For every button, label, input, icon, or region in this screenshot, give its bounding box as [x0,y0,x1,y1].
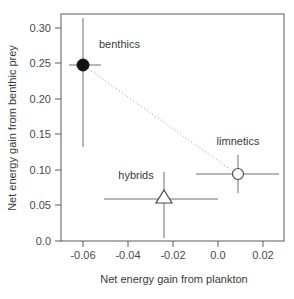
x-tick-label-3: 0.0 [210,249,225,261]
hybrids-marker [156,190,172,203]
y-tick-label-5: 0.25 [30,57,51,69]
hybrids-label: hybrids [118,169,154,181]
data-point-hybrids [104,172,218,238]
x-axis-title: Net energy gain from plankton [100,273,247,285]
benthics-marker [77,59,89,71]
y-tick-label-6: 0.30 [30,22,51,34]
data-point-limnetics [196,155,279,193]
limnetics-marker [233,169,244,180]
plot-frame [61,14,284,241]
benthics-label: benthics [99,38,140,50]
y-tick-label-4: 0.20 [30,93,51,105]
y-axis-tick-labels: 0.0 0.05 0.10 0.15 0.20 0.25 0.30 [30,22,51,247]
y-axis-title: Net energy gain from benthic prey [6,45,18,211]
y-tick-label-2: 0.10 [30,164,51,176]
y-axis-ticks [55,28,61,241]
limnetics-label: limnetics [217,135,260,147]
x-axis-tick-labels: -0.06 -0.04 -0.02 0.0 0.02 [70,249,273,261]
x-tick-label-4: 0.02 [252,249,273,261]
x-tick-label-0: -0.06 [70,249,95,261]
scatter-plot-figure: 0.0 0.05 0.10 0.15 0.20 0.25 0.30 -0.06 … [0,0,294,299]
y-tick-label-1: 0.05 [30,199,51,211]
plot-canvas: 0.0 0.05 0.10 0.15 0.20 0.25 0.30 -0.06 … [0,0,294,299]
x-tick-label-2: -0.02 [160,249,185,261]
y-tick-label-0: 0.0 [36,235,51,247]
data-point-benthics [69,18,101,147]
connector-benthics-limnetics [83,65,238,175]
x-tick-label-1: -0.04 [115,249,140,261]
y-tick-label-3: 0.15 [30,128,51,140]
x-axis-ticks [83,241,263,247]
